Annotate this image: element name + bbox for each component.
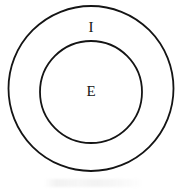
outer-set-label: I <box>71 20 111 35</box>
inner-set-label: E <box>71 84 111 99</box>
euler-diagram-canvas: I E <box>0 0 187 189</box>
